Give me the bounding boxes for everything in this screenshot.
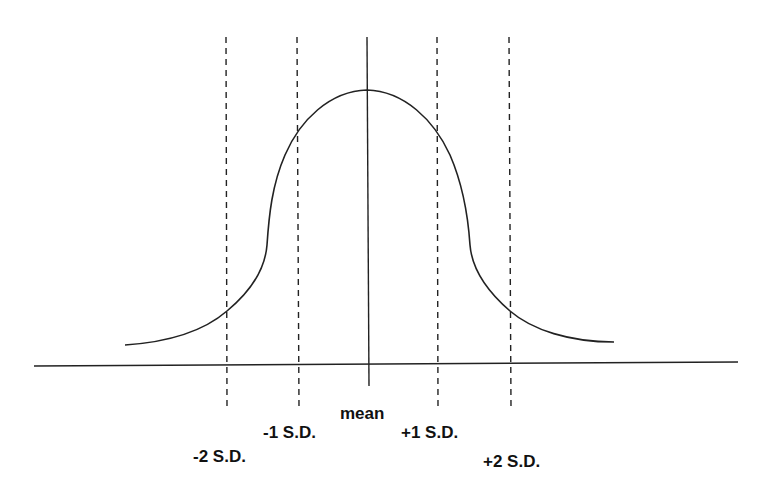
minus-1-sd-label: -1 S.D. bbox=[263, 423, 316, 442]
plus-1-sd-line bbox=[437, 37, 438, 408]
minus-2-sd-line bbox=[226, 37, 227, 408]
plus-2-sd-label: +2 S.D. bbox=[483, 452, 540, 471]
mean-label: mean bbox=[340, 404, 384, 423]
minus-2-sd-label: -2 S.D. bbox=[193, 447, 246, 466]
x-axis-baseline bbox=[34, 362, 738, 366]
plus-1-sd-label: +1 S.D. bbox=[401, 423, 458, 442]
normal-distribution-diagram: -2 S.D. -1 S.D. mean +1 S.D. +2 S.D. bbox=[0, 0, 764, 488]
bell-curve bbox=[125, 90, 614, 345]
plus-2-sd-line bbox=[509, 37, 511, 408]
minus-1-sd-line bbox=[297, 37, 299, 408]
